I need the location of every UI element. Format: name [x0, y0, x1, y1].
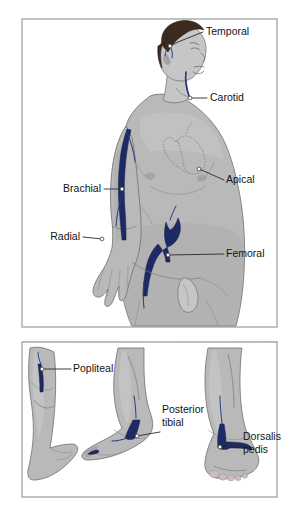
toe-2: [219, 474, 227, 480]
pulse-point-dorsalis-pedis: [218, 445, 222, 449]
label-carotid: Carotid: [210, 91, 244, 103]
pulse-point-femoral: [166, 253, 170, 257]
pulse-point-apical: [197, 167, 201, 171]
pulse-point-posterior-tibial: [135, 434, 139, 438]
pulse-point-temporal: [168, 44, 172, 48]
pulse-sites-figure: TemporalCarotidApicalBrachialRadialFemor…: [0, 0, 299, 513]
nipple-left: [145, 173, 155, 180]
label-radial: Radial: [50, 230, 80, 242]
label-apical: Apical: [226, 173, 255, 185]
label-popliteal: Popliteal: [73, 362, 113, 374]
toe-3: [228, 475, 235, 481]
toe-4: [235, 475, 241, 480]
label-femoral: Femoral: [226, 247, 265, 259]
pulse-point-brachial: [120, 187, 124, 191]
pulse-point-radial: [100, 237, 104, 241]
pulse-point-popliteal: [40, 367, 44, 371]
toe-1: [209, 470, 218, 477]
pulse-point-carotid: [188, 96, 192, 100]
nipple-right: [197, 175, 207, 182]
label-brachial: Brachial: [63, 182, 101, 194]
label-temporal: Temporal: [206, 25, 249, 37]
toe-5: [242, 474, 247, 479]
